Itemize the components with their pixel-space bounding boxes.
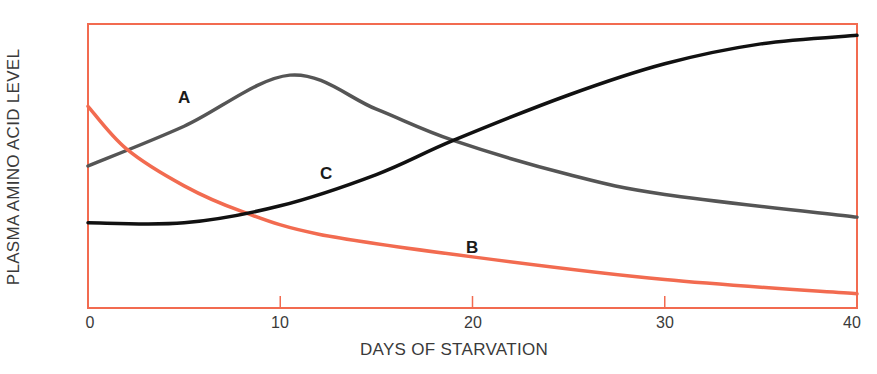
y-axis-label-text: PLASMA AMINO ACID LEVEL [4, 49, 24, 286]
plot-frame [88, 24, 857, 308]
x-tick-label-40: 40 [843, 314, 861, 332]
curve-label-a: A [178, 88, 190, 108]
x-ticks [280, 296, 665, 308]
curve-label-b: B [466, 238, 478, 258]
y-axis-label: PLASMA AMINO ACID LEVEL [2, 24, 26, 310]
curve-b [88, 106, 857, 293]
curve-label-c: C [320, 164, 332, 184]
x-tick-label-0: 0 [86, 314, 95, 332]
line-chart [0, 0, 877, 374]
x-axis-label: DAYS OF STARVATION [360, 340, 548, 360]
x-tick-label-10: 10 [271, 314, 289, 332]
x-tick-label-30: 30 [656, 314, 674, 332]
x-tick-label-20: 20 [464, 314, 482, 332]
